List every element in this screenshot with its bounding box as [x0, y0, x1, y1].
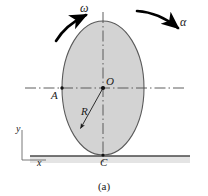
radius-label: R: [81, 106, 88, 117]
angular-velocity-label: ω: [80, 2, 88, 14]
axis-y-label: y: [16, 124, 20, 134]
center-label: O: [106, 76, 114, 87]
point-a-label: A: [51, 90, 58, 101]
point-a-dot: [60, 86, 63, 89]
center-point-dot: [101, 86, 105, 90]
ground-band: [30, 156, 190, 163]
angular-acceleration-label: α: [180, 16, 186, 28]
alpha-curved-arrow: [137, 11, 178, 28]
figure-caption: (a): [0, 180, 208, 192]
point-c-label: C: [100, 157, 107, 168]
axis-x-label: x: [37, 158, 41, 168]
rolling-disk-figure: ω α O A R C y x (a): [0, 0, 208, 196]
